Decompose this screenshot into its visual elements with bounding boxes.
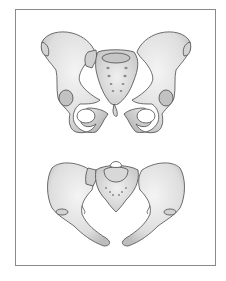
left-ilium: [42, 32, 108, 133]
pelvis-anterior: [41, 32, 191, 133]
right-ischial-spine: [147, 206, 150, 214]
pelvis-anterior-illustration: [0, 0, 226, 281]
right-ischial-tuberosity: [164, 209, 176, 215]
left-acetabulum: [59, 90, 73, 106]
left-ischial-spine: [82, 206, 85, 214]
right-acetabulum: [159, 90, 173, 106]
spinal-canal: [110, 162, 122, 168]
sacral-promontory: [102, 53, 130, 63]
pelvis-superior: [48, 162, 185, 247]
left-obturator-foramen: [77, 109, 95, 123]
illustration-canvas: [0, 0, 226, 281]
right-ilium: [124, 32, 190, 133]
coccyx: [113, 104, 117, 116]
right-obturator-foramen: [137, 109, 155, 123]
left-ischial-tuberosity: [56, 209, 68, 215]
